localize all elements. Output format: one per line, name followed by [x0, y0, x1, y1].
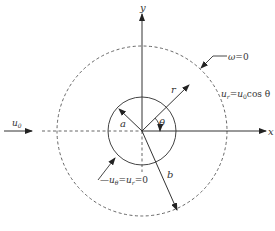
vorticity-bc-label: ω=0 — [228, 52, 249, 62]
vorticity-bc-leader — [201, 56, 227, 68]
radius-b-label: b — [167, 169, 173, 180]
y-axis-label: y — [139, 2, 146, 13]
freestream-label: u0 — [12, 118, 22, 129]
radius-a-label: a — [120, 118, 126, 129]
radial-r-arrow — [142, 85, 189, 131]
wall-bc-label: —uθ=ur=0 — [100, 175, 148, 186]
cylinder-flow-diagram: y x a b r θ u0 ω=0 ur=u0cos θ —uθ=ur=0 — [0, 0, 275, 231]
radial-r-label: r — [171, 84, 177, 95]
theta-label: θ — [159, 117, 165, 128]
x-axis-label: x — [268, 126, 274, 137]
far-field-bc-label: ur=u0cos θ — [221, 89, 270, 100]
